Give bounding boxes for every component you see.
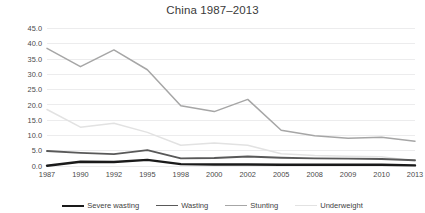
series-line-stunting	[47, 48, 415, 141]
legend-label: Wasting	[181, 201, 208, 210]
y-axis-tick-label: 40.0	[28, 39, 42, 48]
series-line-severe-wasting	[47, 160, 415, 166]
x-axis-tick-label: 2005	[273, 170, 289, 179]
y-axis-tick-label: 30.0	[28, 70, 42, 79]
x-axis-tick-label: 1995	[139, 170, 155, 179]
chart-container: China 1987–2013 0.05.010.015.020.025.030…	[0, 0, 425, 213]
y-axis-tick-label: 45.0	[28, 24, 42, 33]
data-series-group	[47, 48, 415, 165]
line-chart-plot: 0.05.010.015.020.025.030.035.040.045.0 1…	[0, 0, 425, 213]
series-line-wasting	[47, 150, 415, 160]
x-axis-tick-labels: 1987199019921995199820002002200520082009…	[39, 170, 423, 179]
x-axis-tick-label: 2008	[306, 170, 322, 179]
legend-line-swatch	[62, 205, 84, 207]
chart-legend: Severe wastingWastingStuntingUnderweight	[0, 201, 425, 210]
gridlines	[47, 29, 415, 167]
legend-line-swatch	[156, 205, 178, 206]
x-axis-tick-label: 2013	[407, 170, 423, 179]
legend-item-underweight[interactable]: Underweight	[295, 201, 363, 210]
x-axis-tick-label: 1998	[173, 170, 189, 179]
y-axis-tick-label: 20.0	[28, 101, 42, 110]
legend-label: Stunting	[250, 201, 278, 210]
x-axis-tick-label: 1992	[106, 170, 122, 179]
y-axis-tick-label: 25.0	[28, 85, 42, 94]
x-axis-tick-label: 2002	[240, 170, 256, 179]
x-axis-tick-label: 2009	[340, 170, 356, 179]
y-axis-tick-label: 10.0	[28, 131, 42, 140]
legend-item-stunting[interactable]: Stunting	[225, 201, 278, 210]
x-axis-tick-label: 2000	[206, 170, 222, 179]
legend-item-wasting[interactable]: Wasting	[156, 201, 208, 210]
y-axis-tick-label: 5.0	[32, 146, 42, 155]
x-axis-tick-label: 1990	[72, 170, 88, 179]
y-axis-tick-label: 15.0	[28, 116, 42, 125]
legend-line-swatch	[295, 205, 317, 206]
x-axis-tick-label: 1987	[39, 170, 55, 179]
x-axis-tick-label: 2010	[373, 170, 389, 179]
y-axis-tick-labels: 0.05.010.015.020.025.030.035.040.045.0	[28, 24, 42, 171]
legend-label: Severe wasting	[87, 201, 139, 210]
legend-item-severe-wasting[interactable]: Severe wasting	[62, 201, 139, 210]
y-axis-tick-label: 35.0	[28, 55, 42, 64]
legend-line-swatch	[225, 205, 247, 206]
legend-label: Underweight	[320, 201, 363, 210]
